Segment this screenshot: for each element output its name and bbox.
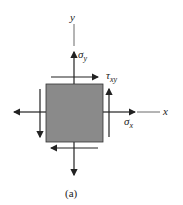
sigma-y-subscript: y xyxy=(83,54,87,63)
x-axis-label: x xyxy=(163,106,168,117)
y-axis-label: y xyxy=(70,12,75,23)
sigma-x-label: σx xyxy=(124,116,133,130)
sigma-y-label: σy xyxy=(78,49,87,63)
stress-element-square xyxy=(46,84,103,142)
tau-xy-label: τxy xyxy=(106,70,117,84)
figure-caption: (a) xyxy=(65,188,77,199)
stress-element-diagram xyxy=(0,0,183,205)
tau-xy-subscript: xy xyxy=(110,75,117,84)
sigma-x-subscript: x xyxy=(129,121,133,130)
